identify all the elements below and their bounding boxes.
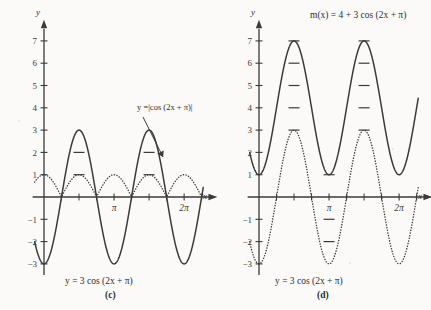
y-tick-label: −1 xyxy=(242,215,252,225)
equation-label-d-bottom: y = 3 cos (2x + π) xyxy=(275,277,343,287)
y-tick-label: 2 xyxy=(33,148,38,158)
equation-label-d-top: m(x) = 4 + 3 cos (2x + π) xyxy=(310,11,406,21)
y-tick-label: 3 xyxy=(33,125,38,135)
scan-speck xyxy=(392,148,394,150)
equation-label-c: y = 3 cos (2x + π) xyxy=(65,277,133,287)
y-tick-label: −3 xyxy=(27,259,37,269)
annotation-leader-line xyxy=(143,117,163,157)
y-tick-label: 5 xyxy=(33,81,38,91)
scan-speck xyxy=(18,120,20,122)
y-tick-label: 5 xyxy=(248,81,253,91)
y-axis-label-c: y xyxy=(36,8,40,17)
caption-c: (c) xyxy=(105,291,116,301)
x-axis-label-c: x xyxy=(203,192,207,201)
y-tick-label: −2 xyxy=(27,237,37,247)
x-tick-label: π xyxy=(112,203,117,213)
y-tick-label: 6 xyxy=(33,58,38,68)
y-tick-label: 7 xyxy=(248,36,253,46)
scan-speck xyxy=(275,281,277,283)
y-tick-label: −2 xyxy=(242,237,252,247)
y-axis-arrowhead xyxy=(41,20,47,29)
y-tick-label: 2 xyxy=(248,148,253,158)
y-tick-label: −3 xyxy=(242,259,252,269)
graph-panel-c: 7654321−1−2−3π2π y x y =|cos (2x + π)| y… xyxy=(0,0,215,310)
graph-canvas-c: 7654321−1−2−3π2π xyxy=(0,0,215,310)
caption-d: (d) xyxy=(317,291,329,301)
y-tick-label: 4 xyxy=(33,103,38,113)
y-tick-label: 4 xyxy=(248,103,253,113)
x-axis-label-d: x xyxy=(418,192,422,201)
annotation-label-c: y =|cos (2x + π)| xyxy=(137,103,193,112)
y-tick-label: 3 xyxy=(248,125,253,135)
y-tick-label: 1 xyxy=(248,170,253,180)
y-tick-label: 6 xyxy=(248,58,253,68)
x-tick-label: 2π xyxy=(394,203,404,213)
x-tick-label: 2π xyxy=(179,203,189,213)
graph-panel-d: 7654321−1−2−3π2π y x m(x) = 4 + 3 cos (2… xyxy=(215,0,431,310)
figure-root: 7654321−1−2−3π2π y x y =|cos (2x + π)| y… xyxy=(0,0,431,310)
curve-solid xyxy=(250,41,419,175)
scan-speck xyxy=(349,262,351,264)
equation-text-d: m(x) = 4 + 3 cos (2x + π) xyxy=(310,10,406,20)
y-tick-label: 7 xyxy=(33,36,38,46)
x-tick-label: π xyxy=(327,203,332,213)
y-axis-label-d: y xyxy=(251,8,255,17)
y-tick-label: −1 xyxy=(27,215,37,225)
y-tick-label: 1 xyxy=(33,170,38,180)
x-axis-arrowhead xyxy=(423,194,431,200)
y-axis-arrowhead xyxy=(256,20,262,29)
graph-canvas-d: 7654321−1−2−3π2π xyxy=(215,0,431,310)
curve-dotted xyxy=(35,175,204,197)
